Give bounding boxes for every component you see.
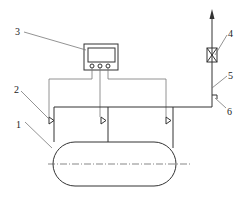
sensors xyxy=(49,117,171,124)
monitor xyxy=(84,44,118,70)
label-5: 5 xyxy=(228,70,233,81)
fitting xyxy=(212,95,217,99)
label-2: 2 xyxy=(14,84,19,95)
schematic-diagram: 1 2 3 4 5 6 xyxy=(0,0,248,198)
outlet-arrow xyxy=(210,9,215,19)
label-4: 4 xyxy=(228,28,233,39)
label-1: 1 xyxy=(16,119,21,130)
label-3: 3 xyxy=(15,26,20,37)
label-6: 6 xyxy=(227,106,232,117)
manifold-pipe xyxy=(54,15,212,148)
